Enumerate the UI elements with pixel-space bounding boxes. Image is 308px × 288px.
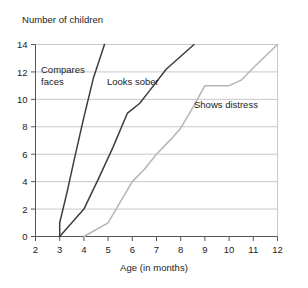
chart-plot-area: 23456789101112 02468101214 Comparesfaces…: [0, 0, 308, 288]
y-tick-label-6: 6: [22, 149, 27, 160]
y-tick-label-10: 10: [17, 94, 28, 105]
x-tick-label-9: 9: [202, 244, 207, 255]
data-series-group: [60, 45, 278, 237]
series-annotations: ComparesfacesLooks soberShows distress: [41, 64, 258, 110]
x-tick-label-8: 8: [178, 244, 183, 255]
x-tick-label-5: 5: [105, 244, 110, 255]
series-label-2-line-0: Shows distress: [194, 99, 258, 110]
x-tick-label-3: 3: [57, 244, 62, 255]
x-tick-label-7: 7: [154, 244, 159, 255]
x-tick-label-11: 11: [248, 244, 258, 255]
series-label-0-line-1: faces: [41, 76, 64, 87]
series-label-0-line-0: Compares: [41, 64, 85, 75]
y-tick-label-14: 14: [17, 39, 28, 50]
series-label-1-line-0: Looks sober: [107, 76, 159, 87]
y-tick-label-12: 12: [17, 67, 28, 78]
y-tick-label-2: 2: [22, 204, 27, 215]
y-axis-tick-labels: 02468101214: [17, 39, 28, 242]
y-axis-ticks: [31, 45, 36, 237]
y-tick-label-8: 8: [22, 121, 27, 132]
y-tick-label-0: 0: [22, 231, 27, 242]
chart-container: Number of children 23456789101112 024681…: [0, 0, 308, 288]
x-tick-label-6: 6: [130, 244, 135, 255]
x-axis-title: Age (in months): [0, 262, 308, 273]
x-axis-ticks: [36, 237, 278, 242]
x-tick-label-2: 2: [33, 244, 38, 255]
x-axis-tick-labels: 23456789101112: [33, 244, 283, 255]
x-tick-label-4: 4: [81, 244, 86, 255]
y-tick-label-4: 4: [22, 176, 27, 187]
series-line-2: [84, 45, 278, 237]
x-tick-label-10: 10: [224, 244, 235, 255]
x-tick-label-12: 12: [272, 244, 283, 255]
